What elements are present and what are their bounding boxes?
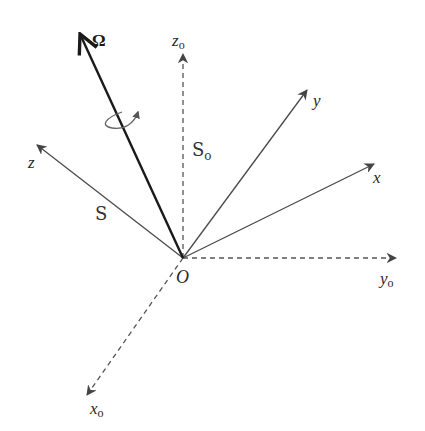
y-label: y <box>311 91 321 110</box>
y0-label: yo <box>378 269 394 290</box>
z0-label: zo <box>171 31 185 52</box>
origin-label: O <box>176 267 189 287</box>
rotating-frame-diagram: Ω zo z y x yo xo O So S <box>0 0 425 431</box>
x0-label: xo <box>89 399 104 420</box>
x-label: x <box>372 168 381 187</box>
frame-S-label: S <box>95 203 107 224</box>
axis-x0 <box>87 258 183 395</box>
omega-label: Ω <box>92 31 106 50</box>
omega-vector <box>80 34 183 258</box>
frame-S0-label: So <box>192 139 212 163</box>
axis-z <box>37 145 183 258</box>
z-label: z <box>27 153 35 172</box>
axis-x <box>183 164 374 258</box>
axis-y <box>183 90 307 258</box>
